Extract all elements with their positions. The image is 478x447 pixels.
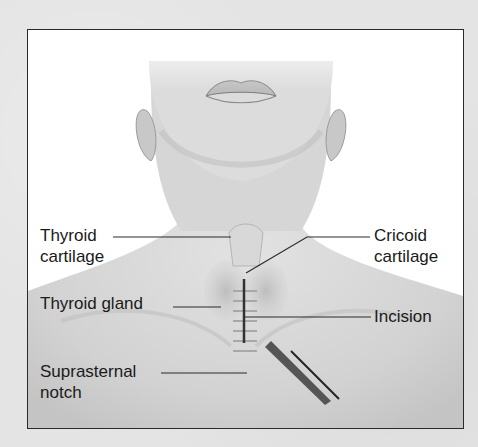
label-cricoid-cartilage: Cricoid cartilage <box>374 225 438 267</box>
label-incision: Incision <box>374 306 432 327</box>
label-thyroid-gland: Thyroid gland <box>40 293 143 314</box>
label-line: Thyroid <box>40 225 104 246</box>
label-line: cartilage <box>374 246 438 267</box>
label-line: Cricoid <box>374 225 438 246</box>
label-line: notch <box>40 382 136 403</box>
label-thyroid-cartilage: Thyroid cartilage <box>40 225 104 267</box>
label-line: cartilage <box>40 246 104 267</box>
label-suprasternal-notch: Suprasternal notch <box>40 361 136 403</box>
label-line: Suprasternal <box>40 361 136 382</box>
